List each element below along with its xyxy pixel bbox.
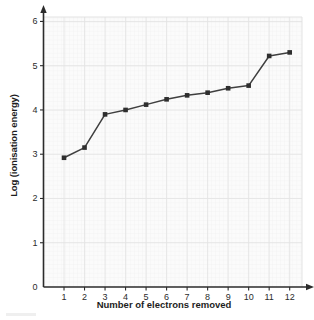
plot-area	[0, 0, 314, 320]
data-point-marker	[287, 50, 292, 55]
data-point-marker	[267, 54, 272, 59]
chart-container: Log (ionisation energy) Number of electr…	[0, 0, 314, 320]
data-point-marker	[62, 155, 67, 160]
data-point-marker	[144, 102, 149, 107]
data-point-marker	[205, 90, 210, 95]
data-point-marker	[103, 112, 108, 117]
data-point-marker	[123, 108, 128, 113]
page-edge-artifact	[6, 313, 36, 316]
data-point-marker	[82, 145, 87, 150]
data-point-marker	[226, 86, 231, 91]
minor-gridlines	[44, 17, 303, 287]
data-point-marker	[164, 97, 169, 102]
data-point-marker	[185, 93, 190, 98]
data-point-marker	[246, 83, 251, 88]
